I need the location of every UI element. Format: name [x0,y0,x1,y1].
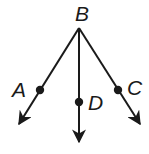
label-a: A [10,78,26,101]
point-d [75,98,83,106]
point-c [114,86,122,94]
point-a [36,86,44,94]
rays-diagram: B A D C [0,0,149,154]
label-d: D [88,91,103,114]
label-b: B [75,2,89,25]
ray-ba [19,28,79,124]
label-c: C [127,76,143,99]
